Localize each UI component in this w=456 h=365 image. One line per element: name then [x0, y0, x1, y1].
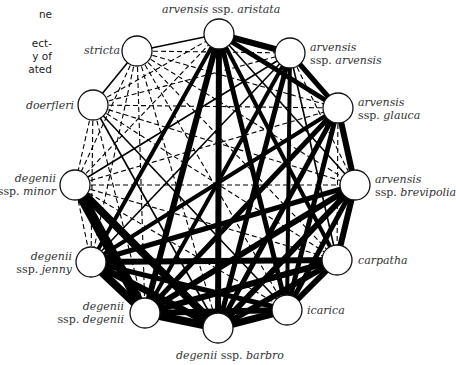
label-arvensis: arvensisssp. arvensis: [310, 41, 382, 67]
label-minor: degeniissp. minor: [0, 172, 56, 198]
label-glauca: arvensisssp. glauca: [358, 96, 420, 122]
label-aristata: arvensis ssp. aristata: [162, 3, 280, 16]
edge-glauca-carpatha: [337, 108, 338, 260]
node-minor: [60, 170, 90, 200]
label-icarica: icarica: [307, 304, 345, 317]
label-barbro: degenii ssp. barbro: [176, 349, 284, 362]
node-doerfleri: [78, 90, 108, 120]
node-carpatha: [322, 245, 352, 275]
label-carpatha: carpatha: [358, 254, 408, 267]
strong-edges: [75, 34, 355, 328]
label-jenny: degeniissp. jenny: [16, 250, 72, 276]
node-degenii: [130, 298, 160, 328]
node-aristata: [204, 19, 234, 49]
label-stricta: stricta: [84, 44, 120, 57]
node-barbro: [203, 313, 233, 343]
label-degenii: degeniissp. degenii: [57, 300, 124, 326]
edge-carpatha-jenny: [91, 260, 337, 262]
node-stricta: [122, 36, 152, 66]
node-arvensis: [275, 38, 305, 68]
edge-doerfleri-jenny: [91, 105, 93, 262]
node-icarica: [272, 295, 302, 325]
label-brevipolia: arvensisssp. brevipolia: [375, 173, 456, 199]
node-glauca: [323, 93, 353, 123]
node-jenny: [76, 247, 106, 277]
label-doerfleri: doerfleri: [26, 99, 74, 112]
node-brevipolia: [340, 170, 370, 200]
